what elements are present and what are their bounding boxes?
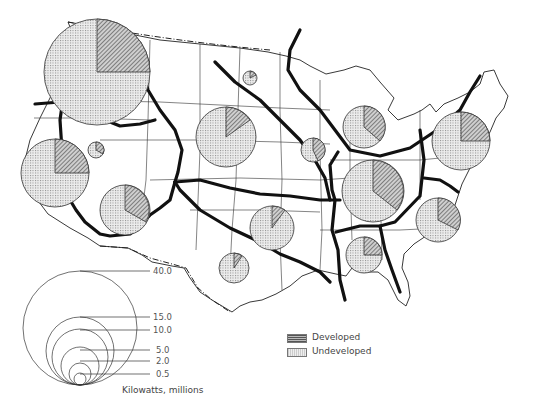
pie-markers: [21, 19, 490, 283]
undeveloped-label: Undeveloped: [312, 346, 371, 356]
scale-value-10: 10.0: [153, 325, 172, 335]
pie-north-atlantic: [432, 112, 490, 170]
developed-label: Developed: [312, 332, 360, 342]
mexico-border: [100, 246, 230, 312]
developed-swatch: [287, 334, 307, 343]
pie-western-gulf: [219, 253, 249, 283]
pie-upper-mississippi: [301, 138, 325, 162]
pie-arkansas: [250, 206, 294, 250]
pie-south-atlantic: [416, 198, 460, 242]
scale-value-40: 40.0: [153, 266, 172, 276]
pie-southeast: [346, 237, 382, 273]
undeveloped-swatch: [287, 348, 307, 357]
pie-nevada-small: [88, 142, 104, 158]
scale-value-0-5: 0.5: [156, 369, 170, 379]
scale-key: [23, 271, 150, 385]
pie-red-river: [243, 71, 257, 85]
scale-value-15: 15.0: [153, 312, 172, 322]
pie-california: [21, 139, 89, 207]
scale-unit-label: Kilowatts, millions: [122, 385, 204, 395]
pie-great-lakes: [343, 106, 385, 148]
pie-ohio: [342, 160, 404, 222]
hydropower-map: 40.0 15.0 10.0 5.0 2.0 0.5 Kilowatts, mi…: [0, 0, 535, 415]
pie-upper-missouri: [196, 107, 256, 167]
pie-pacific-northwest: [44, 19, 150, 125]
scale-value-5: 5.0: [156, 345, 170, 355]
pie-colorado: [100, 185, 150, 235]
scale-value-2: 2.0: [156, 356, 170, 366]
